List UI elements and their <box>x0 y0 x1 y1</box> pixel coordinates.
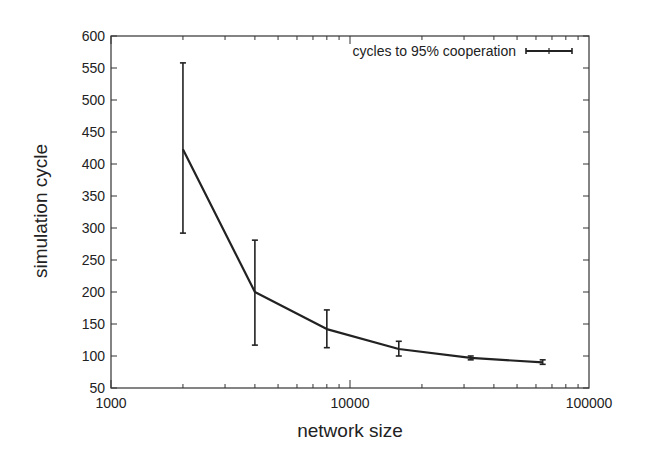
y-tick-label: 450 <box>82 124 106 140</box>
y-axis-ticks: 50100150200250300350400450500550600 <box>82 28 589 396</box>
series-line <box>183 149 543 362</box>
y-tick-label: 100 <box>82 348 106 364</box>
legend-label: cycles to 95% cooperation <box>353 43 516 59</box>
y-tick-label: 300 <box>82 220 106 236</box>
x-axis-ticks: 100010000100000 <box>95 36 612 411</box>
legend-line-sample <box>526 48 572 54</box>
y-axis-title: simulation cycle <box>30 144 51 278</box>
x-axis-title: network size <box>297 420 403 441</box>
x-tick-label: 100000 <box>566 395 613 411</box>
y-tick-label: 400 <box>82 156 106 172</box>
legend: cycles to 95% cooperation <box>353 43 572 59</box>
x-tick-label: 10000 <box>331 395 370 411</box>
y-tick-label: 350 <box>82 188 106 204</box>
y-tick-label: 500 <box>82 92 106 108</box>
y-tick-label: 550 <box>82 60 106 76</box>
y-tick-label: 200 <box>82 284 106 300</box>
chart: 50100150200250300350400450500550600 1000… <box>0 0 651 457</box>
y-tick-label: 600 <box>82 28 106 44</box>
x-tick-label: 1000 <box>95 395 126 411</box>
y-tick-label: 150 <box>82 316 106 332</box>
y-tick-label: 50 <box>89 380 105 396</box>
y-tick-label: 250 <box>82 252 106 268</box>
data-series <box>180 63 546 364</box>
